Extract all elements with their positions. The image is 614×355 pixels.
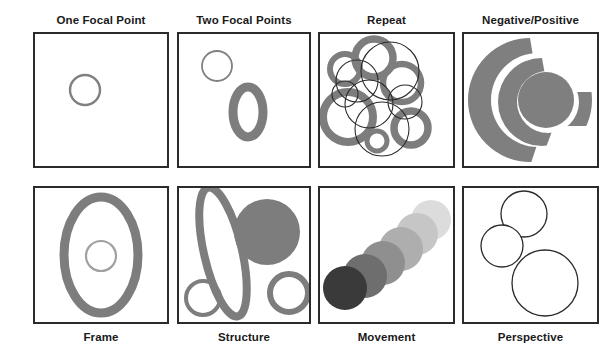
focal-circle-small [202, 51, 232, 81]
panel-caption-repeat: Repeat [318, 13, 455, 27]
panel-frame [33, 186, 169, 324]
movement-discs [323, 200, 451, 310]
frame-inner-circle [86, 241, 116, 271]
panel-one-focal-point [33, 32, 169, 168]
panel-negative-positive [462, 32, 599, 168]
repeat-gray-rings [323, 39, 428, 151]
panel-perspective [462, 186, 599, 324]
panel-caption-structure: Structure [177, 330, 311, 344]
structure-ring-right [270, 274, 308, 312]
panel-structure [177, 186, 311, 324]
composition-chart: One Focal Point Two Focal Points Repeat … [0, 0, 614, 355]
panel-caption-two-focal-points: Two Focal Points [177, 13, 311, 27]
frame-outer-ellipse [64, 197, 138, 313]
panel-caption-perspective: Perspective [462, 330, 599, 344]
panel-two-focal-points [177, 32, 311, 168]
panel-caption-frame: Frame [33, 330, 169, 344]
focal-circle [70, 75, 100, 105]
panel-caption-negative-positive: Negative/Positive [462, 13, 599, 27]
panel-caption-one-focal-point: One Focal Point [33, 13, 169, 27]
panel-movement [318, 186, 455, 324]
perspective-circles [481, 191, 578, 316]
focal-ellipse-thick [233, 87, 263, 137]
spiral-crescents [468, 38, 597, 166]
panel-caption-movement: Movement [318, 330, 455, 344]
panel-repeat [318, 32, 455, 168]
